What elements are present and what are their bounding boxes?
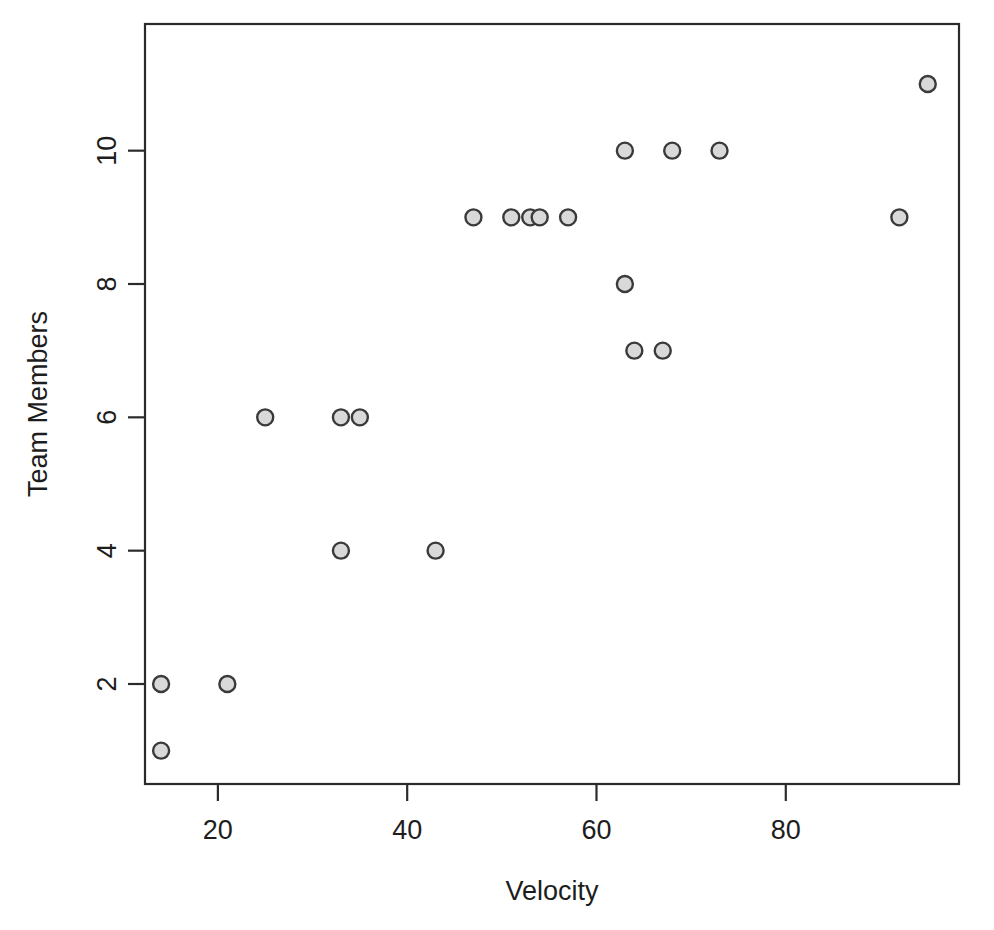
data-point-group [153, 76, 936, 759]
x-axis-ticks [218, 784, 786, 801]
plot-canvas: 20406080 246810 Velocity Team Members [0, 0, 994, 930]
plot-frame-box [145, 24, 959, 784]
data-point [712, 143, 728, 159]
data-point [257, 409, 273, 425]
x-tick-label-40: 40 [392, 815, 422, 845]
data-point [352, 409, 368, 425]
y-tick-label-2: 2 [92, 676, 122, 691]
x-tick-label-20: 20 [203, 815, 233, 845]
y-axis-title: Team Members [23, 311, 53, 497]
data-point [560, 209, 576, 225]
data-point [333, 409, 349, 425]
data-point [655, 343, 671, 359]
data-point [532, 209, 548, 225]
data-point [153, 743, 169, 759]
x-axis-title: Velocity [505, 876, 599, 906]
data-point [891, 209, 907, 225]
x-tick-label-60: 60 [581, 815, 611, 845]
y-tick-label-8: 8 [92, 276, 122, 291]
y-axis-tick-labels: 246810 [92, 136, 122, 692]
y-tick-label-4: 4 [92, 543, 122, 558]
data-point [503, 209, 519, 225]
data-point [428, 543, 444, 559]
data-point [617, 143, 633, 159]
data-point [626, 343, 642, 359]
data-point [465, 209, 481, 225]
data-point [219, 676, 235, 692]
y-tick-label-6: 6 [92, 410, 122, 425]
x-tick-label-80: 80 [771, 815, 801, 845]
y-tick-label-10: 10 [92, 136, 122, 166]
scatter-plot-figure: 20406080 246810 Velocity Team Members [0, 0, 994, 930]
data-point [333, 543, 349, 559]
data-point [617, 276, 633, 292]
x-axis-tick-labels: 20406080 [203, 815, 801, 845]
data-point [664, 143, 680, 159]
y-axis-ticks [128, 151, 145, 684]
data-point [153, 676, 169, 692]
data-point [920, 76, 936, 92]
